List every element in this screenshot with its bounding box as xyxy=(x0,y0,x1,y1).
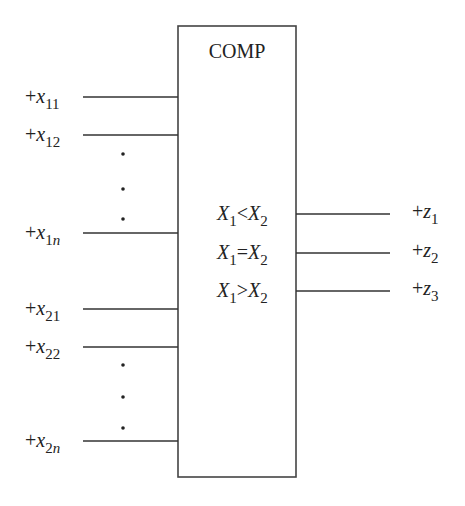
comparator-diagram: COMP +x11 +x12 +x1n +x21 +x22 +x2n X1<X2… xyxy=(0,0,465,506)
input-label-x12: +x12 xyxy=(25,123,60,150)
output-label-z1: +z1 xyxy=(412,200,439,227)
condition-labels: X1<X2 X1=X2 X1>X2 xyxy=(216,202,268,306)
input-label-x1n: +x1n xyxy=(25,221,60,248)
input-labels: +x11 +x12 +x1n +x21 +x22 +x2n xyxy=(25,85,60,456)
ellipsis-dot xyxy=(121,363,125,367)
ellipsis-dot xyxy=(121,217,125,221)
output-label-z2: +z2 xyxy=(412,239,439,266)
ellipsis-dot xyxy=(121,426,125,430)
output-label-z3: +z3 xyxy=(412,277,439,304)
output-wires xyxy=(296,214,390,291)
ellipsis-dot xyxy=(121,395,125,399)
ellipsis-dot xyxy=(121,152,125,156)
input-label-x2n: +x2n xyxy=(25,429,60,456)
ellipsis-group-2 xyxy=(121,363,125,430)
output-labels: +z1 +z2 +z3 xyxy=(412,200,439,304)
ellipsis-dot xyxy=(121,187,125,191)
input-wires xyxy=(83,97,178,441)
input-label-x11: +x11 xyxy=(25,85,60,112)
block-title: COMP xyxy=(209,40,266,62)
input-label-x22: +x22 xyxy=(25,335,60,362)
ellipsis-group-1 xyxy=(121,152,125,221)
input-label-x21: +x21 xyxy=(25,297,60,324)
